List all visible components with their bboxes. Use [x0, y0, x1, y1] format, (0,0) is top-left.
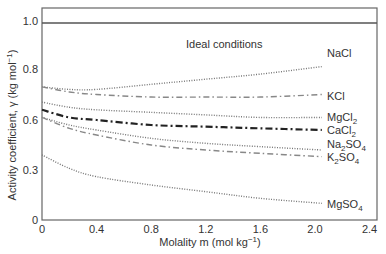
activity-coefficient-chart: 00.30.60.81.0 00.40.81.21.62.02.4 Ideal … [0, 0, 386, 254]
label-mgso4: MgSO4 [327, 198, 363, 213]
series-line-cacl2 [42, 110, 322, 130]
x-tick-label: 0.4 [89, 223, 104, 235]
x-tick-label: 1.6 [253, 223, 268, 235]
x-tick-label: 2.0 [307, 223, 322, 235]
series-line-nacl [42, 67, 322, 90]
series-line-mgcl2 [42, 102, 322, 117]
series-labels: NaCl KCl MgCl2 CaCl2 Na2SO4 K2SO4 MgSO4 [327, 47, 366, 213]
y-tick-label: 0 [32, 214, 38, 226]
y-tick-label: 0.3 [23, 164, 38, 176]
series-line-na2so4 [42, 117, 322, 150]
series-line-kcl [42, 87, 322, 97]
y-axis: 00.30.60.81.0 [23, 15, 38, 226]
ideal-conditions-annotation: Ideal conditions [186, 38, 263, 50]
y-tick-label: 0.8 [23, 63, 38, 75]
y-tick-label: 1.0 [23, 15, 38, 27]
x-tick-label: 2.4 [362, 223, 377, 235]
series-line-mgso4 [42, 155, 322, 203]
x-axis-title: Molality m (mol kg−1) [159, 235, 260, 248]
y-tick-label: 0.6 [23, 114, 38, 126]
x-tick-label: 0 [39, 223, 45, 235]
label-kcl: KCl [327, 90, 345, 102]
label-nacl: NaCl [327, 47, 351, 59]
x-tick-label: 0.8 [144, 223, 159, 235]
label-k2so4: K2SO4 [327, 151, 360, 166]
label-cacl2: CaCl2 [327, 124, 356, 139]
y-axis-title: Activity coefficient, γ (kg mol−1) [5, 50, 18, 201]
x-tick-label: 1.2 [198, 223, 213, 235]
series-line-k2so4 [42, 117, 322, 156]
x-axis: 00.40.81.21.62.02.4 [39, 223, 377, 235]
